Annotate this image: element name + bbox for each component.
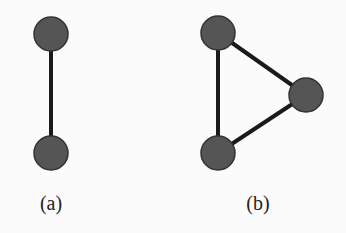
caption-a: (a)	[40, 192, 62, 215]
graph-b	[201, 16, 323, 170]
node	[289, 78, 323, 112]
node	[201, 16, 235, 50]
graph-a	[34, 17, 68, 170]
figure-canvas: (a) (b)	[0, 0, 346, 233]
node	[34, 136, 68, 170]
node	[34, 17, 68, 51]
node	[201, 136, 235, 170]
caption-b: (b)	[246, 192, 269, 215]
